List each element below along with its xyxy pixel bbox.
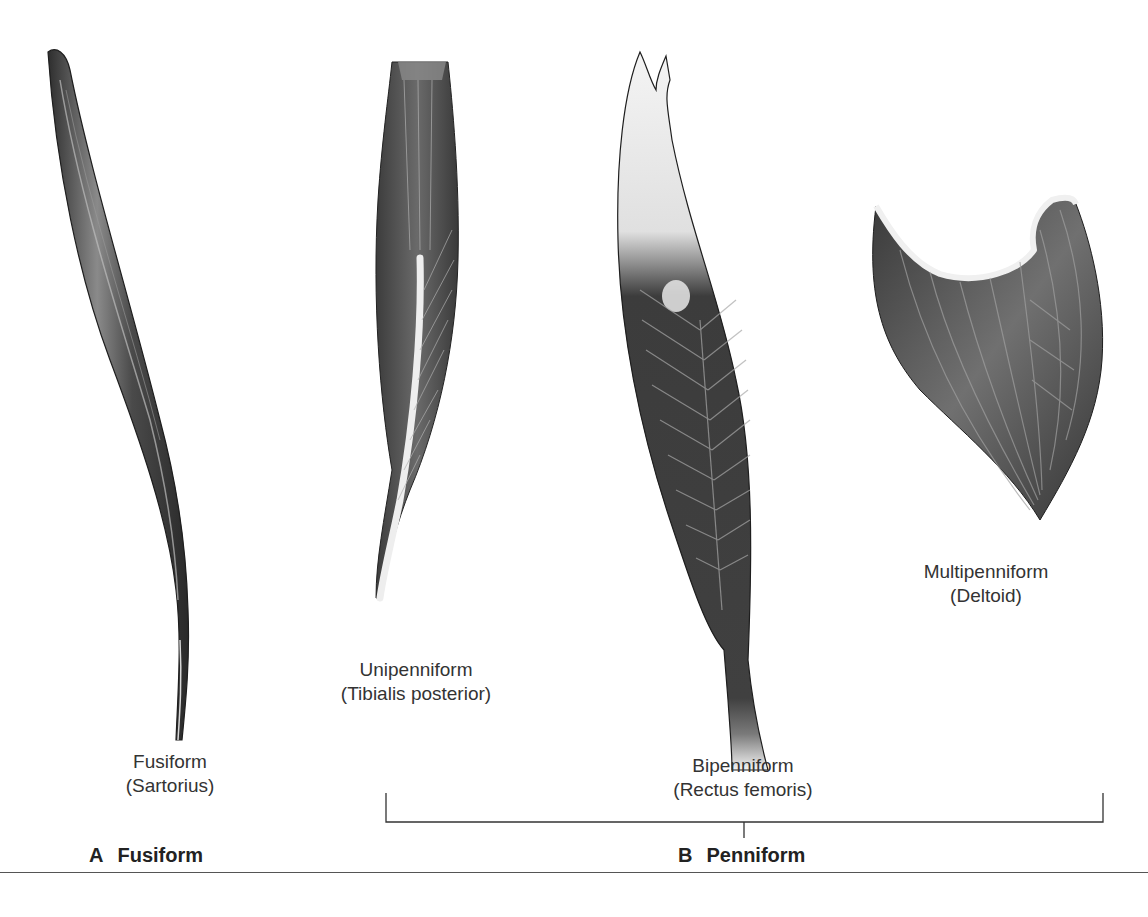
label-unipenniform-name: Unipenniform [318,658,514,682]
label-unipenniform-example: (Tibialis posterior) [318,682,514,706]
fusiform-muscle-drawing [48,50,189,740]
panel-a-heading: Fusiform [117,844,203,866]
label-bipenniform: Bipenniform (Rectus femoris) [654,754,832,802]
label-fusiform: Fusiform (Sartorius) [104,750,236,798]
bipenniform-muscle-drawing [618,52,768,770]
panel-b-letter: B [678,844,692,866]
bottom-divider [0,872,1148,873]
multipenniform-muscle-drawing [873,198,1103,520]
panel-b-heading: Penniform [706,844,805,866]
label-bipenniform-name: Bipenniform [654,754,832,778]
panel-b-title: BPenniform [678,844,805,867]
label-bipenniform-example: (Rectus femoris) [654,778,832,802]
panel-a-letter: A [89,844,103,866]
label-multipenniform: Multipenniform (Deltoid) [910,560,1062,608]
label-multipenniform-example: (Deltoid) [910,584,1062,608]
unipenniform-muscle-drawing [376,62,458,598]
label-multipenniform-name: Multipenniform [910,560,1062,584]
label-unipenniform: Unipenniform (Tibialis posterior) [318,658,514,706]
label-fusiform-example: (Sartorius) [104,774,236,798]
panel-a-title: AFusiform [89,844,203,867]
label-fusiform-name: Fusiform [104,750,236,774]
